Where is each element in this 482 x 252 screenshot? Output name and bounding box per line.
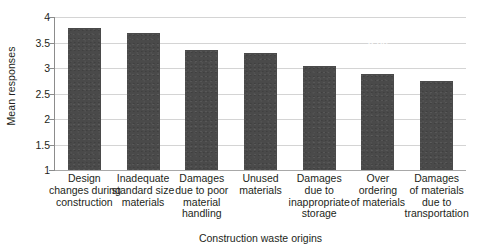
x-category-line: of materials [401,185,472,197]
x-category-line: transportation [401,208,472,220]
x-category-label: Damagesof materialsdue totransportation [401,173,472,220]
bar[interactable]: 2.74 [420,81,453,170]
bars-layer: 3.793.693.363.33.042.892.74 [55,17,466,170]
bar-value-label: 3.36 [185,0,218,4]
bar[interactable]: 3.79 [68,28,101,170]
bar[interactable]: 3.04 [303,66,336,170]
bar-value-label: 3.3 [244,0,277,10]
y-tick-label: 1 [16,165,50,175]
bar[interactable]: 2.89 [361,74,394,170]
bar[interactable]: 3.3 [244,53,277,170]
y-tick-label: 2 [16,114,50,124]
x-axis-category-labels: Designchanges duringconstructionInadequa… [55,173,466,231]
y-tick-label: 2.5 [16,89,50,99]
y-tick-label: 1.5 [16,140,50,150]
x-category-line: storage [284,208,355,220]
y-tick-label: 3.5 [16,38,50,48]
x-category-line: handling [166,208,237,220]
y-axis-ticks: 11.522.533.54 [0,0,50,190]
gridline-1 [55,170,466,171]
bar-value-label: 3.04 [303,26,336,37]
y-tick-label: 3 [16,63,50,73]
bar-chart: Mean responses 11.522.533.54 3.793.693.3… [0,0,482,252]
bar-value-label: 2.74 [420,56,453,67]
y-tick-label: 4 [16,12,50,22]
bar-value-label: 2.89 [361,41,394,52]
bar[interactable]: 3.36 [185,50,218,170]
bar[interactable]: 3.69 [127,33,160,170]
x-axis-title: Construction waste origins [55,232,466,244]
